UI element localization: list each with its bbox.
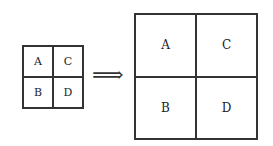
large-cell-a: A	[135, 14, 196, 77]
large-cell-b: B	[135, 77, 196, 140]
large-cell-d: D	[196, 77, 257, 140]
small-cell-d: D	[53, 77, 83, 108]
double-arrow-icon: ⟹	[92, 64, 124, 86]
small-cell-a: A	[23, 46, 53, 77]
small-grid: A C B D	[22, 45, 84, 109]
large-cell-c: C	[196, 14, 257, 77]
small-cell-c: C	[53, 46, 83, 77]
small-cell-b: B	[23, 77, 53, 108]
large-grid: A C B D	[134, 13, 258, 140]
